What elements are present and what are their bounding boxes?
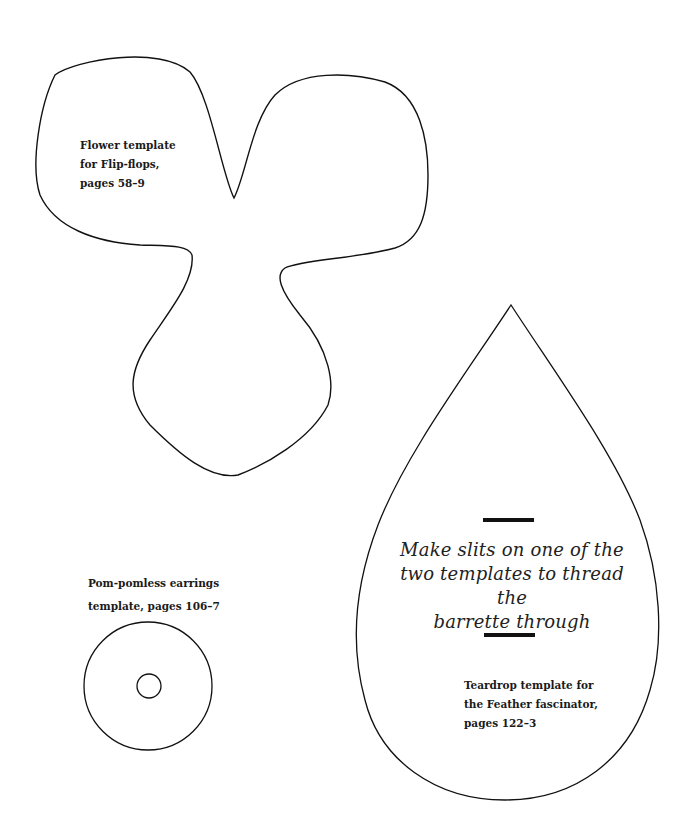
flower-template-outline [36, 57, 428, 476]
earring-template-inner-hole [137, 674, 161, 698]
flower-template-label: Flower template for Flip-flops, pages 58… [80, 136, 176, 193]
instruction-line-2: two templates to thread the [392, 562, 632, 610]
earring-template-label: Pom-pomless earrings template, pages 106… [88, 572, 220, 618]
slit-marker-bottom [484, 633, 535, 637]
slit-instruction: Make slits on one of the two templates t… [392, 538, 632, 634]
teardrop-label-line-1: Teardrop template for [464, 676, 598, 695]
earring-template-outer-circle [84, 622, 212, 750]
flower-label-line-3: pages 58–9 [80, 174, 176, 193]
teardrop-template-label: Teardrop template for the Feather fascin… [464, 676, 598, 733]
teardrop-label-line-3: pages 122–3 [464, 714, 598, 733]
teardrop-label-line-2: the Feather fascinator, [464, 695, 598, 714]
instruction-line-3: barrette through [392, 610, 632, 634]
instruction-line-1: Make slits on one of the [392, 538, 632, 562]
earring-label-line-2: template, pages 106–7 [88, 595, 220, 618]
flower-label-line-1: Flower template [80, 136, 176, 155]
slit-marker-top [483, 518, 534, 522]
earring-label-line-1: Pom-pomless earrings [88, 572, 220, 595]
flower-label-line-2: for Flip-flops, [80, 155, 176, 174]
